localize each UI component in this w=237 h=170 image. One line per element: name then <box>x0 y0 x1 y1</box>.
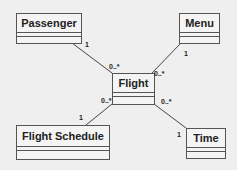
association-time-flight <box>154 104 186 128</box>
multiplicity-flight-schedule-side: 0..* <box>101 97 112 105</box>
attributes-compartment <box>180 33 219 37</box>
class-name: Flight <box>113 74 154 93</box>
multiplicity-flight-menu: 0..* <box>154 70 165 78</box>
multiplicity-passenger: 1 <box>85 41 89 49</box>
class-time[interactable]: Time <box>186 128 226 159</box>
attributes-compartment <box>17 147 109 151</box>
multiplicity-menu: 1 <box>184 50 188 58</box>
attributes-compartment <box>17 33 81 37</box>
multiplicity-time: 1 <box>177 131 181 139</box>
multiplicity-flight-time: 0..* <box>161 98 172 106</box>
class-passenger[interactable]: Passenger <box>16 13 82 44</box>
multiplicity-flight-passenger: 0..* <box>109 63 120 71</box>
class-name: Passenger <box>17 14 81 33</box>
class-name: Menu <box>180 14 219 33</box>
association-schedule-flight <box>86 104 112 125</box>
attributes-compartment <box>187 148 225 152</box>
class-flight[interactable]: Flight <box>112 73 155 105</box>
class-name: Flight Schedule <box>17 126 109 147</box>
class-flight-schedule[interactable]: Flight Schedule <box>16 125 110 160</box>
multiplicity-flight-schedule: 1 <box>79 114 83 122</box>
association-menu-flight <box>152 43 181 73</box>
class-name: Time <box>187 129 225 148</box>
association-passenger-flight <box>72 43 112 73</box>
class-menu[interactable]: Menu <box>179 13 220 44</box>
attributes-compartment <box>113 93 154 97</box>
